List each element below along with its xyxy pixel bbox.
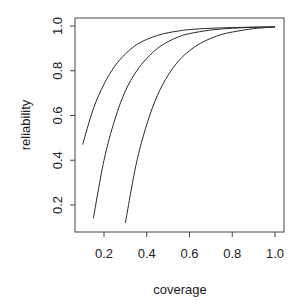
plot-frame [75,18,284,232]
y-tick-label: 0.6 [50,106,65,124]
y-tick-label: 1.0 [50,17,65,35]
reliability-coverage-chart: 0.20.40.60.81.0 0.20.40.60.81.0 coverage… [0,0,300,307]
y-tick-label: 0.8 [50,62,65,80]
y-tick-label: 0.2 [50,196,65,214]
x-tick-label: 0.4 [138,246,156,261]
curve-3-line [125,27,275,223]
y-tick-label: 0.4 [50,151,65,169]
x-axis-ticks: 0.20.40.60.81.0 [95,232,284,261]
x-tick-label: 0.8 [223,246,241,261]
y-axis-label: reliability [18,99,33,150]
x-tick-label: 0.2 [95,246,113,261]
curve-1-line [83,27,275,145]
curves [83,27,275,223]
x-axis-label: coverage [153,282,206,297]
x-tick-label: 1.0 [266,246,284,261]
y-axis-ticks: 0.20.40.60.81.0 [50,17,75,214]
x-tick-label: 0.6 [180,246,198,261]
